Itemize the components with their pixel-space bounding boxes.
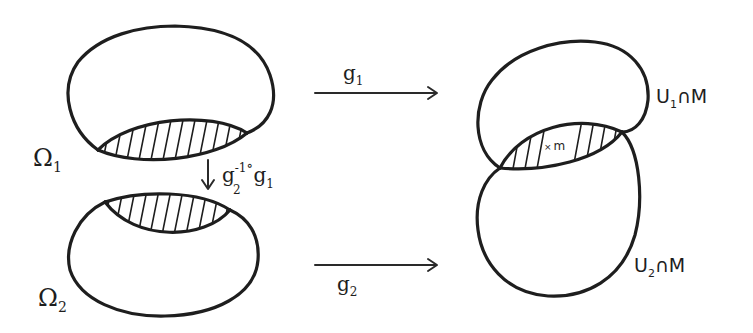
u2-outline [477,132,639,296]
omega2-label: Ω2 [38,284,67,315]
omega2-region [69,185,259,316]
omega1-region [68,26,274,175]
u1-label: U1∩M [656,85,707,111]
omega1-label: Ω1 [33,144,62,175]
transition-map-arrow [202,160,214,189]
g2-arrow [315,259,437,271]
transition-map-inverse-subscript: 2 [233,183,241,197]
u2-label: U2∩M [634,254,685,280]
omega2-outline [69,202,259,316]
g1-label: g1 [343,61,363,88]
chart-overlap-diagram: Ω1 g-1∘g1 2 Ω2 g1 g2 [0,0,753,333]
g1-arrow [315,87,437,99]
point-m-label: ×m [544,139,565,153]
g2-label: g2 [337,272,357,299]
transition-map-label: g-1∘g1 [222,157,274,191]
